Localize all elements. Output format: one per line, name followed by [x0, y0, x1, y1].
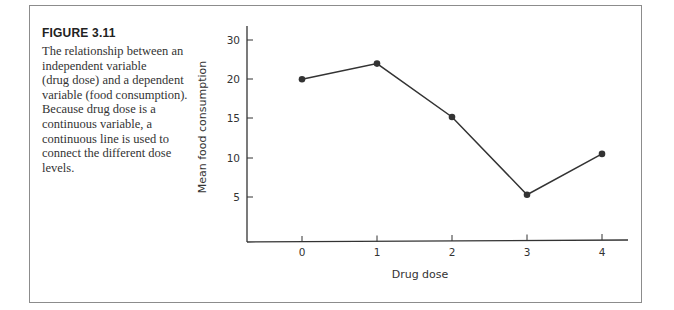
x-axis [247, 240, 628, 242]
y-tick-label: 15 [227, 112, 240, 124]
x-tick-label: 1 [374, 246, 381, 258]
series-line [302, 64, 602, 195]
data-point [299, 76, 306, 83]
x-axis-title: Drug dose [392, 268, 449, 281]
data-point [449, 114, 456, 121]
y-tick-label: 30 [227, 34, 240, 46]
data-point [524, 191, 531, 198]
x-ticks: 01234 [299, 234, 606, 258]
data-point [374, 60, 381, 67]
y-axis-title: Mean food consumption [196, 61, 209, 194]
y-ticks: 510152030 [227, 34, 253, 203]
y-tick-label: 10 [227, 152, 240, 164]
x-tick-label: 4 [599, 246, 606, 258]
y-tick-label: 5 [233, 191, 240, 203]
line-chart: 510152030 01234 Drug dose Mean food cons… [0, 0, 674, 310]
y-tick-label: 20 [227, 73, 240, 85]
data-point [599, 151, 606, 158]
x-tick-label: 0 [299, 246, 306, 258]
x-tick-label: 3 [524, 246, 531, 258]
x-tick-label: 2 [449, 246, 456, 258]
